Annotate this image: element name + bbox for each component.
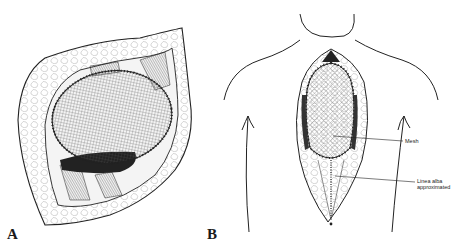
linea-alba-annotation-line2: approximated: [417, 184, 450, 190]
incision-b: [296, 49, 367, 225]
figure: A B Mesh Linea alba approximated: [0, 0, 466, 249]
linea-alba-annotation: Linea alba approximated: [417, 178, 450, 190]
illustration-canvas: [0, 0, 466, 249]
panel-label-b: B: [207, 226, 217, 243]
panel-a-illustration: [18, 28, 191, 225]
panel-label-a: A: [7, 226, 18, 243]
mesh-annotation: Mesh: [405, 138, 418, 144]
mesh-b: [306, 63, 354, 158]
